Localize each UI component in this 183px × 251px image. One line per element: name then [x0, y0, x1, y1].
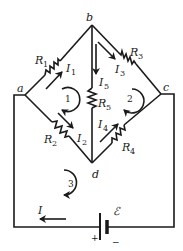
- loop-3-label: 3: [68, 179, 74, 189]
- svg-text:R: R: [129, 46, 138, 59]
- svg-text:5: 5: [106, 103, 111, 112]
- label-i2: I 2: [76, 132, 87, 147]
- label-i5: I 5: [98, 76, 109, 91]
- label-i: I: [37, 204, 43, 217]
- battery-minus: −: [112, 237, 120, 247]
- svg-text:1: 1: [43, 60, 48, 69]
- battery: [100, 213, 107, 240]
- svg-text:R: R: [121, 141, 130, 154]
- circuit-diagram: b a c d R 1 R 3 R 5 R 2 R 4 I 1 I 3 I 5 …: [0, 0, 183, 251]
- arrow-i1: [46, 72, 62, 89]
- label-i3: I 3: [114, 63, 125, 78]
- arrow-i3: [98, 42, 115, 59]
- node-label-c: c: [163, 81, 169, 94]
- loop-2-label: 2: [127, 94, 133, 104]
- svg-text:4: 4: [103, 124, 108, 133]
- svg-text:2: 2: [82, 138, 87, 147]
- resistor-r2: [52, 121, 69, 137]
- svg-text:R: R: [97, 97, 106, 110]
- node-label-d: d: [92, 168, 99, 181]
- branch-b-d: [88, 25, 96, 163]
- svg-text:R: R: [34, 54, 43, 67]
- battery-plus: +: [91, 233, 99, 243]
- node-label-a: a: [17, 82, 24, 95]
- label-r2: R 2: [43, 133, 57, 148]
- svg-text:R: R: [43, 133, 52, 146]
- svg-text:1: 1: [71, 68, 76, 77]
- label-i4: I 4: [97, 118, 108, 133]
- svg-text:2: 2: [52, 139, 57, 148]
- node-label-b: b: [86, 11, 93, 24]
- label-r5: R 5: [97, 97, 111, 112]
- emf-label: ℰ: [113, 205, 121, 218]
- svg-text:4: 4: [130, 147, 135, 156]
- label-r3: R 3: [129, 46, 143, 61]
- resistor-r5: [88, 88, 96, 108]
- svg-text:3: 3: [138, 52, 143, 61]
- branch-a-d: [25, 95, 92, 163]
- label-r4: R 4: [121, 141, 135, 156]
- loop-1-label: 1: [65, 94, 71, 104]
- svg-text:3: 3: [120, 69, 125, 78]
- label-r1: R 1: [34, 54, 48, 69]
- svg-text:5: 5: [104, 82, 109, 91]
- label-i1: I 1: [65, 62, 76, 77]
